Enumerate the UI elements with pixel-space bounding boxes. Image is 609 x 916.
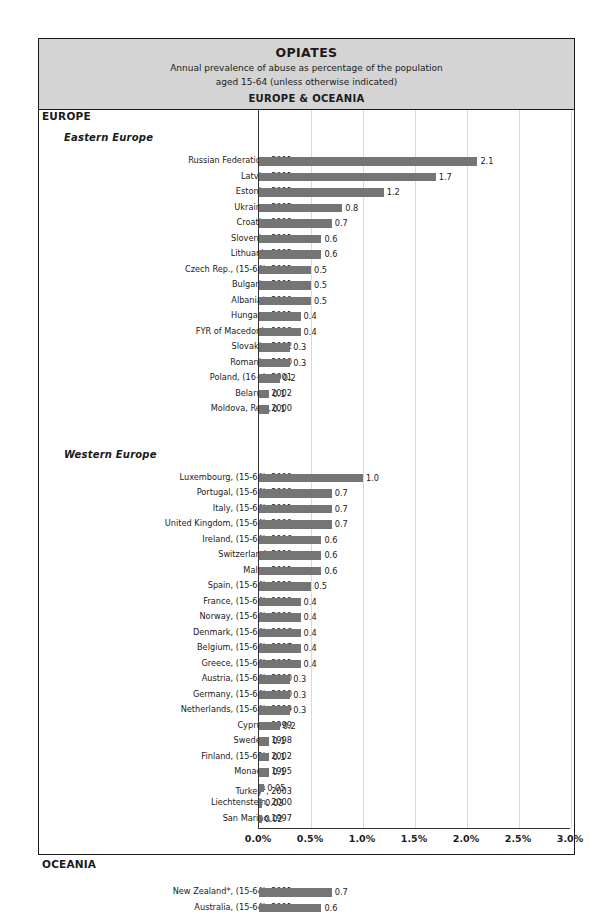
bar-container: 1.2 xyxy=(259,188,400,197)
bar-value-label: 1.0 xyxy=(366,474,379,483)
bar xyxy=(259,706,290,715)
bar xyxy=(259,613,301,622)
bar-container: 0.7 xyxy=(259,505,348,514)
bar-row: Estonia, 20011.2 xyxy=(38,186,575,202)
x-tick-label: 1.0% xyxy=(349,833,375,844)
bar-value-label: 0.4 xyxy=(304,613,317,622)
bar-value-label: 0.6 xyxy=(324,250,337,259)
chart-body: EUROPEEastern EuropeRussian Federation, … xyxy=(38,110,575,855)
bar-container: 0.6 xyxy=(259,250,337,259)
bar-value-label: 0.7 xyxy=(335,520,348,529)
bar-row: Poland, (16+), 20010.2 xyxy=(38,372,575,388)
bar xyxy=(259,328,301,337)
chart-subtitle-line1: Annual prevalence of abuse as percentage… xyxy=(39,63,574,75)
bar-container: 0.4 xyxy=(259,598,317,607)
bar xyxy=(259,598,301,607)
bar-container: 0.6 xyxy=(259,235,337,244)
bar-container: 0.4 xyxy=(259,644,317,653)
bar xyxy=(259,675,290,684)
bar-row: Latvia, 20011.7 xyxy=(38,171,575,187)
section-header-oceania: OCEANIA xyxy=(42,858,96,870)
bar-container: 0.3 xyxy=(259,359,306,368)
bar-row: Ireland, (15-64), 19960.6 xyxy=(38,534,575,550)
bar-value-label: 0.5 xyxy=(314,281,327,290)
bar-row: New Zealand*, (15-64), 20010.7 xyxy=(38,886,575,902)
bar-value-label: 0.3 xyxy=(293,343,306,352)
bar-row: Romania, 20000.3 xyxy=(38,357,575,373)
bar-container: 0.7 xyxy=(259,219,348,228)
bar-container: 0.1 xyxy=(259,390,285,399)
bar-container: 0.3 xyxy=(259,691,306,700)
bar-container: 0.05 xyxy=(259,784,285,793)
bar xyxy=(259,405,269,414)
bar-container: 0.1 xyxy=(259,737,285,746)
bar-value-label: 0.3 xyxy=(293,675,306,684)
bar xyxy=(259,629,301,638)
bar-value-label: 0.1 xyxy=(272,753,285,762)
bar-container: 0.5 xyxy=(259,582,327,591)
bar-container: 0.5 xyxy=(259,266,327,275)
bar-row: United Kingdom, (15-64), 20000.7 xyxy=(38,518,575,534)
bar-value-label: 0.05 xyxy=(267,784,285,793)
bar xyxy=(259,343,290,352)
bar-row: Ukraine, 20020.8 xyxy=(38,202,575,218)
bar-value-label: 0.4 xyxy=(304,598,317,607)
bar-value-label: 0.4 xyxy=(304,629,317,638)
bar-value-label: 0.2 xyxy=(283,374,296,383)
bar-container: 0.6 xyxy=(259,536,337,545)
bar-value-label: 0.7 xyxy=(335,489,348,498)
bar-value-label: 0.7 xyxy=(335,219,348,228)
chart-header-band: OPIATES Annual prevalence of abuse as pe… xyxy=(38,38,575,110)
bar xyxy=(259,204,342,213)
bar-row: Hungary, 20010.4 xyxy=(38,310,575,326)
bar-container: 0.6 xyxy=(259,567,337,576)
bar-row: Slovakia, 20020.3 xyxy=(38,341,575,357)
bar xyxy=(259,474,363,483)
bar-container: 0.3 xyxy=(259,675,306,684)
bar xyxy=(259,297,311,306)
bar-value-label: 0.4 xyxy=(304,328,317,337)
bar-value-label: 0.4 xyxy=(304,312,317,321)
bar-row: Portugal, (15-64), 20000.7 xyxy=(38,487,575,503)
bar-container: 0.4 xyxy=(259,613,317,622)
x-axis-line xyxy=(258,828,570,829)
bar-row: Denmark, (15-64), 19960.4 xyxy=(38,627,575,643)
bar-row: Belgium, (15-64), 19970.4 xyxy=(38,642,575,658)
bar-row: Finland, (15-69), 20020.1 xyxy=(38,751,575,767)
bar-value-label: 0.5 xyxy=(314,266,327,275)
bar-container: 2.1 xyxy=(259,157,493,166)
bar-row: Spain, (15-64), 19990.5 xyxy=(38,580,575,596)
x-tick-label: 0.5% xyxy=(297,833,323,844)
bar-value-label: 1.7 xyxy=(439,173,452,182)
bar-container: 0.03 xyxy=(259,799,283,808)
bar-value-label: 0.7 xyxy=(335,505,348,514)
bar-row: Cyprus, 19990.2 xyxy=(38,720,575,736)
bar-value-label: 0.03 xyxy=(265,799,283,808)
chart-region-label: EUROPE & OCEANIA xyxy=(39,93,574,104)
bar-value-label: 0.1 xyxy=(272,390,285,399)
bar-container: 0.4 xyxy=(259,629,317,638)
bar xyxy=(259,737,269,746)
bar-row: Greece, (15-64), 20010.4 xyxy=(38,658,575,674)
bar xyxy=(259,644,301,653)
bar xyxy=(259,312,301,321)
bar-row: France, (15-64), 19990.4 xyxy=(38,596,575,612)
bar xyxy=(259,489,332,498)
bar xyxy=(259,753,269,762)
bar-container: 0.4 xyxy=(259,312,317,321)
bar xyxy=(259,567,321,576)
bar-value-label: 2.1 xyxy=(480,157,493,166)
bar-row: Slovenia, 20010.6 xyxy=(38,233,575,249)
bar-value-label: 0.5 xyxy=(314,297,327,306)
bar-container: 0.5 xyxy=(259,281,327,290)
bar-container: 0.4 xyxy=(259,660,317,669)
bar-row: Norway, (15-64), 20000.4 xyxy=(38,611,575,627)
bar-row: Bulgaria, 20010.5 xyxy=(38,279,575,295)
bar-row: Croatia, 19990.7 xyxy=(38,217,575,233)
bar-value-label: 0.1 xyxy=(272,405,285,414)
bar-value-label: 0.8 xyxy=(345,204,358,213)
bar-value-label: 0.2 xyxy=(283,722,296,731)
section-header-europe: EUROPE xyxy=(42,110,91,122)
bar-value-label: 0.7 xyxy=(335,888,348,897)
chart-subtitle-line2: aged 15-64 (unless otherwise indicated) xyxy=(39,77,574,89)
